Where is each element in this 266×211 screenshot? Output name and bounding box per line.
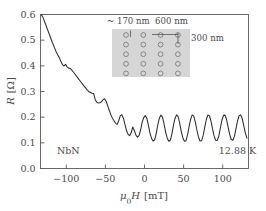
- inset-antidot: [176, 61, 181, 66]
- inset-antidot: [158, 61, 163, 66]
- y-tick-label: 0.6: [20, 9, 35, 20]
- y-tick-label: 0.1: [20, 137, 35, 148]
- y-axis-title: R[Ω]: [5, 77, 16, 106]
- inset-antidot-array: ~ 170 nm 600 nm 300 nm: [107, 16, 224, 77]
- x-tick-label: 0: [141, 173, 147, 184]
- inset-antidot: [176, 52, 181, 57]
- inset-antidot: [141, 71, 146, 76]
- inset-antidot: [158, 71, 163, 76]
- inset-antidot: [141, 42, 146, 47]
- inset-label-vertical-pitch: 300 nm: [191, 33, 224, 43]
- inset-antidot: [141, 33, 146, 38]
- inset-antidot: [124, 61, 129, 66]
- y-tick-label: 0.3: [20, 86, 35, 97]
- chart-canvas: 0.00.10.20.30.40.50.6 −100−50050100 ~ 17…: [0, 0, 266, 211]
- inset-antidot: [124, 71, 129, 76]
- inset-antidot: [158, 42, 163, 47]
- x-axis-tick-labels: −100−50050100: [53, 173, 232, 184]
- y-tick-label: 0.4: [20, 60, 35, 71]
- inset-label-horizontal-pitch: 600 nm: [155, 16, 188, 26]
- x-axis-ticks: [66, 165, 222, 169]
- y-tick-label: 0.2: [20, 111, 35, 122]
- y-tick-label: 0.5: [20, 34, 35, 45]
- inset-antidot: [124, 42, 129, 47]
- annotation-temperature: 12.88 K: [219, 145, 257, 156]
- plot-annotations: NbN12.88 K: [57, 145, 257, 156]
- y-tick-label: 0.0: [20, 163, 35, 174]
- y-axis-tick-labels: 0.00.10.20.30.40.50.6: [20, 9, 35, 174]
- inset-antidot: [158, 33, 163, 38]
- x-tick-label: −50: [95, 173, 115, 184]
- inset-label-dot-diameter: ~ 170 nm: [107, 16, 150, 26]
- inset-antidot: [124, 33, 129, 38]
- inset-antidot: [158, 52, 163, 57]
- x-axis-title: μ0H[mT]: [120, 190, 168, 206]
- x-tick-label: −100: [53, 173, 79, 184]
- y-axis-ticks: [41, 15, 45, 169]
- x-tick-label: 50: [178, 173, 190, 184]
- x-tick-label: 100: [214, 173, 232, 184]
- inset-antidot: [176, 71, 181, 76]
- annotation-material: NbN: [57, 145, 80, 156]
- inset-antidot: [141, 52, 146, 57]
- magnetoresistance-figure: 0.00.10.20.30.40.50.6 −100−50050100 ~ 17…: [0, 0, 266, 211]
- inset-antidot: [124, 52, 129, 57]
- inset-antidot: [141, 61, 146, 66]
